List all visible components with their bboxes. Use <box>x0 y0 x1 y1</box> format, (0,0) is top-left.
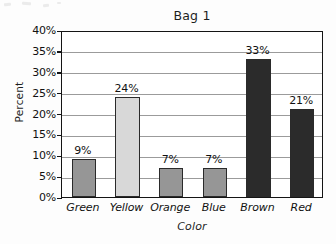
bar-value-label-blue: 7% <box>192 153 236 166</box>
y-axis-tick-label: 15% <box>18 128 56 141</box>
chart-title: Bag 1 <box>61 8 323 23</box>
scan-artifact <box>57 2 61 4</box>
bar-brown <box>246 59 270 197</box>
bar-green <box>72 159 96 197</box>
x-axis-title: Color <box>61 220 323 233</box>
y-axis-tick-label: 25% <box>18 87 56 100</box>
scan-artifact <box>4 3 11 7</box>
gridline <box>62 73 322 74</box>
bar-blue <box>203 168 227 197</box>
y-axis-tick-label: 5% <box>18 170 56 183</box>
scan-artifact <box>43 4 49 7</box>
plot-area <box>61 31 323 198</box>
scan-artifact <box>22 2 31 6</box>
x-axis-tick-label-red: Red <box>273 201 329 214</box>
bar-chart-figure: Bag 1 Percent 0%5%10%15%20%25%30%35%40% … <box>0 0 336 244</box>
gridline <box>62 115 322 116</box>
y-axis-tick-label: 0% <box>18 191 56 204</box>
bar-value-label-yellow: 24% <box>105 82 149 95</box>
gridline <box>62 52 322 53</box>
bar-value-label-red: 21% <box>279 94 323 107</box>
gridline <box>62 178 322 179</box>
y-axis-tick-label: 40% <box>18 24 56 37</box>
bar-yellow <box>115 97 139 197</box>
bar-value-label-green: 9% <box>61 144 105 157</box>
bar-red <box>290 109 314 197</box>
y-axis-tick-label: 35% <box>18 45 56 58</box>
bar-value-label-brown: 33% <box>236 44 280 57</box>
bar-value-label-orange: 7% <box>148 153 192 166</box>
bar-orange <box>159 168 183 197</box>
y-axis-tick-label: 20% <box>18 108 56 121</box>
y-axis-tick-label: 30% <box>18 66 56 79</box>
y-axis-tick-label: 10% <box>18 149 56 162</box>
gridline <box>62 136 322 137</box>
